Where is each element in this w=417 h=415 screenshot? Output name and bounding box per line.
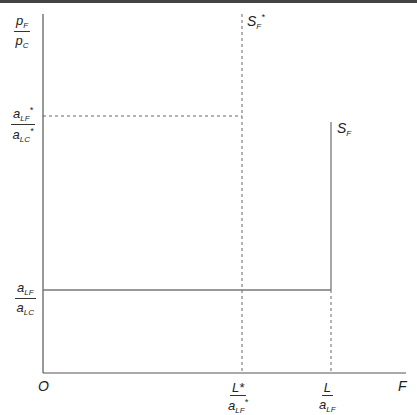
x-tick-foreign-quantity: L* aLF* [228, 381, 248, 415]
y-tick-home-ratio: aLF aLC [15, 281, 36, 317]
y-tick-foreign-ratio: aLF* aLC* [11, 106, 35, 145]
origin-label: O [38, 379, 49, 393]
sf-label: SF [337, 121, 351, 138]
sf-star-label: SF* [247, 13, 265, 31]
x-axis-label: F [398, 379, 407, 393]
x-tick-home-quantity: L aLF [319, 381, 336, 414]
y-axis-label: pF pC [14, 14, 30, 50]
